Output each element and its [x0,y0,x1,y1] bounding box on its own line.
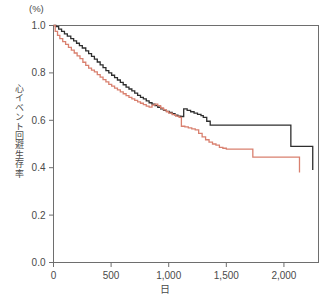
y-axis-tick-label: 0.0 [32,257,46,268]
x-axis-tick-label: 1,000 [156,270,181,281]
x-axis-tick-label: 2,000 [271,270,296,281]
y-axis-tick-label: 0.4 [32,162,46,173]
x-axis-title: 日 [0,281,330,296]
y-axis-tick-label: 1.0 [32,20,46,31]
survival-curve-black-curve [54,26,313,171]
plot-frame [54,26,319,263]
x-axis-tick-label: 1,500 [214,270,239,281]
survival-curve-red-curve [54,26,300,173]
y-axis-tick-label: 0.2 [32,210,46,221]
y-axis-tick-label: 0.8 [32,67,46,78]
kaplan-meier-plot: 05001,0001,5002,0000.00.20.40.60.81.0 [0,0,330,300]
chart-root: (%) 心イベント回避生存率 05001,0001,5002,0000.00.2… [0,0,330,300]
y-axis-tick-label: 0.6 [32,115,46,126]
x-axis-tick-label: 0 [51,270,57,281]
x-axis-tick-label: 500 [103,270,120,281]
